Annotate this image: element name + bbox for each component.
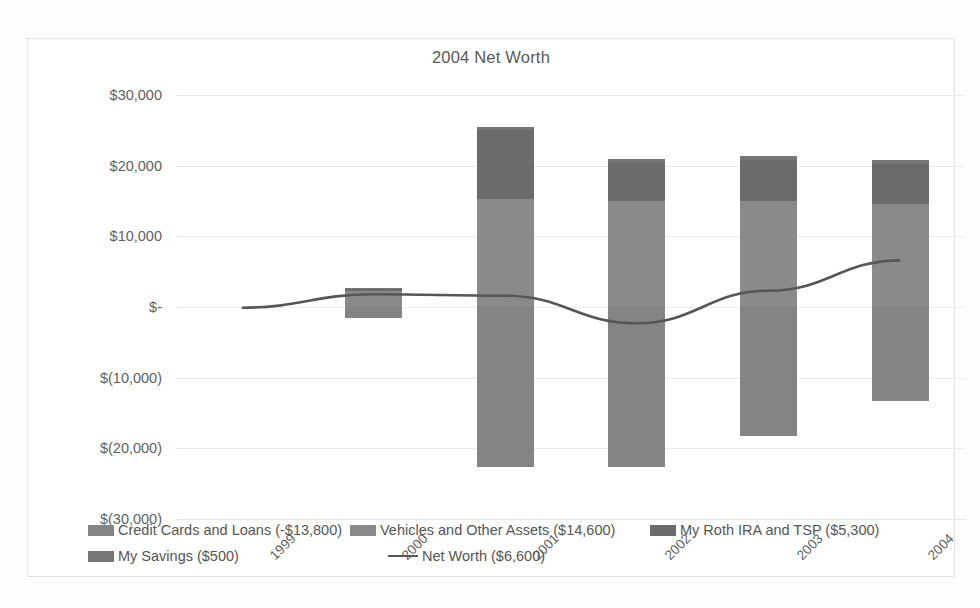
bar-column[interactable] xyxy=(213,95,270,519)
bar-segment[interactable] xyxy=(740,201,797,307)
y-tick-label: $10,000 xyxy=(110,228,162,244)
gridline xyxy=(176,378,966,379)
bar-segment[interactable] xyxy=(608,163,665,201)
legend-color-swatch xyxy=(88,551,114,562)
legend-label: My Savings ($500) xyxy=(118,548,239,564)
legend-item[interactable]: My Savings ($500) xyxy=(88,548,239,564)
bar-segment[interactable] xyxy=(345,291,402,307)
bar-column[interactable] xyxy=(872,95,929,519)
chart-page: { "chart": { "title": "2004 Net Worth" }… xyxy=(0,0,980,608)
legend-item[interactable]: Credit Cards and Loans (-$13,800) xyxy=(88,522,342,538)
bar-segment[interactable] xyxy=(477,199,534,307)
bar-segment[interactable] xyxy=(872,164,929,204)
y-tick-label: $(10,000) xyxy=(100,370,162,386)
bar-segment[interactable] xyxy=(872,160,929,164)
bar-segment[interactable] xyxy=(345,289,402,291)
bar-segment[interactable] xyxy=(477,307,534,467)
chart-legend: Credit Cards and Loans (-$13,800)Vehicle… xyxy=(88,517,908,569)
bar-segment[interactable] xyxy=(477,127,534,131)
bar-segment[interactable] xyxy=(608,201,665,307)
bar-column[interactable] xyxy=(608,95,665,519)
gridline xyxy=(176,448,966,449)
net-worth-line[interactable] xyxy=(242,260,900,323)
y-tick-label: $(20,000) xyxy=(100,440,162,456)
y-tick-label: $- xyxy=(149,299,162,315)
bar-column[interactable] xyxy=(477,95,534,519)
legend-color-swatch xyxy=(650,525,676,536)
legend-label: My Roth IRA and TSP ($5,300) xyxy=(680,522,879,538)
gridline xyxy=(176,166,966,167)
bar-column[interactable] xyxy=(740,95,797,519)
bar-segment[interactable] xyxy=(345,288,402,289)
legend-item[interactable]: Vehicles and Other Assets ($14,600) xyxy=(350,522,615,538)
legend-item[interactable]: Net Worth ($6,600) xyxy=(388,548,545,564)
chart-title: 2004 Net Worth xyxy=(28,48,954,67)
gridline xyxy=(176,307,966,308)
legend-label: Credit Cards and Loans (-$13,800) xyxy=(118,522,342,538)
bar-segment[interactable] xyxy=(477,130,534,199)
bar-segment[interactable] xyxy=(608,159,665,163)
legend-label: Net Worth ($6,600) xyxy=(422,548,545,564)
y-tick-label: $30,000 xyxy=(110,87,162,103)
legend-label: Vehicles and Other Assets ($14,600) xyxy=(380,522,615,538)
bar-segment[interactable] xyxy=(872,204,929,307)
bar-segment[interactable] xyxy=(608,307,665,467)
legend-row: My Savings ($500)Net Worth ($6,600) xyxy=(88,543,908,569)
bar-segment[interactable] xyxy=(740,307,797,436)
bar-segment[interactable] xyxy=(740,156,797,160)
gridline xyxy=(176,236,966,237)
plot-area: $30,000$20,000$10,000$-$(10,000)$(20,000… xyxy=(176,95,966,519)
bar-segment[interactable] xyxy=(345,307,402,318)
legend-color-swatch xyxy=(88,525,114,536)
x-tick-label: 2004 xyxy=(925,531,957,563)
legend-line-swatch xyxy=(388,555,418,557)
gridline xyxy=(176,95,966,96)
chart-frame: 2004 Net Worth $30,000$20,000$10,000$-$(… xyxy=(27,38,955,577)
bar-column[interactable] xyxy=(345,95,402,519)
legend-color-swatch xyxy=(350,525,376,536)
bar-segment[interactable] xyxy=(740,160,797,201)
y-tick-label: $20,000 xyxy=(110,158,162,174)
legend-item[interactable]: My Roth IRA and TSP ($5,300) xyxy=(650,522,879,538)
legend-row: Credit Cards and Loans (-$13,800)Vehicle… xyxy=(88,517,908,543)
bar-segment[interactable] xyxy=(872,307,929,401)
